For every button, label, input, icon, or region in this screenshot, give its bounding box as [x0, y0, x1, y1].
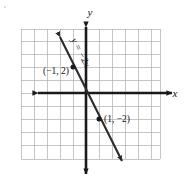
- data-point-marker: [97, 117, 102, 122]
- graph-figure: x y y = −2x (−1, 2) (1, −2): [0, 0, 186, 182]
- data-point-marker: [71, 65, 76, 70]
- coordinate-plane-svg: x y y = −2x (−1, 2) (1, −2): [0, 0, 186, 182]
- point-label-right: (1, −2): [104, 114, 130, 125]
- y-axis-label: y: [87, 6, 93, 18]
- corner-speck-icon: [4, 6, 6, 8]
- plotted-line: [60, 37, 122, 161]
- point-label-left: (−1, 2): [43, 66, 69, 77]
- x-axis-label: x: [172, 87, 178, 99]
